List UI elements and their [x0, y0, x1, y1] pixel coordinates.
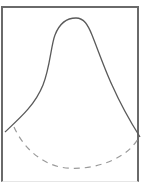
solid-bell-curve: [5, 18, 140, 137]
dashed-u-curve: [14, 127, 139, 168]
diagram-canvas: [0, 0, 145, 184]
